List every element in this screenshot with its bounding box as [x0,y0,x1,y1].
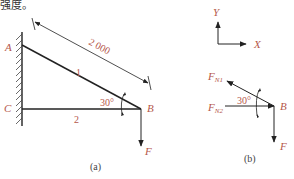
label-force-b: F [279,140,287,152]
dimension-label: 2 000 [87,36,112,56]
label-fn2: FN2 [207,101,223,115]
label-c: C [4,102,12,114]
axis-x-label: X [253,38,262,50]
label-a: A [4,41,12,53]
axis-y-label: Y [213,6,221,18]
label-angle-b: 30° [237,95,251,106]
figure-b: Y X FN1 FN2 30° B F (b) [207,6,287,165]
angle-arc-b [256,90,259,116]
label-force: F [144,145,152,157]
label-b: B [147,102,154,114]
header-fragment: 强度。 [0,0,33,12]
label-member-1: 1 [76,67,81,78]
caption-b: (b) [244,153,256,165]
label-member-2: 2 [74,114,79,125]
truss-diagram: 强度。 2 000 A C B 1 [0,0,294,179]
figure-a: 2 000 A C B 1 2 30° F (a) [4,18,154,173]
label-b-point: B [280,100,287,112]
label-angle: 30° [100,97,114,108]
wall-hatching [16,34,22,124]
angle-arc [121,94,124,114]
member-1 [22,45,141,109]
label-fn1: FN1 [207,70,223,84]
dimension-line [35,22,148,83]
caption-a: (a) [90,161,101,173]
